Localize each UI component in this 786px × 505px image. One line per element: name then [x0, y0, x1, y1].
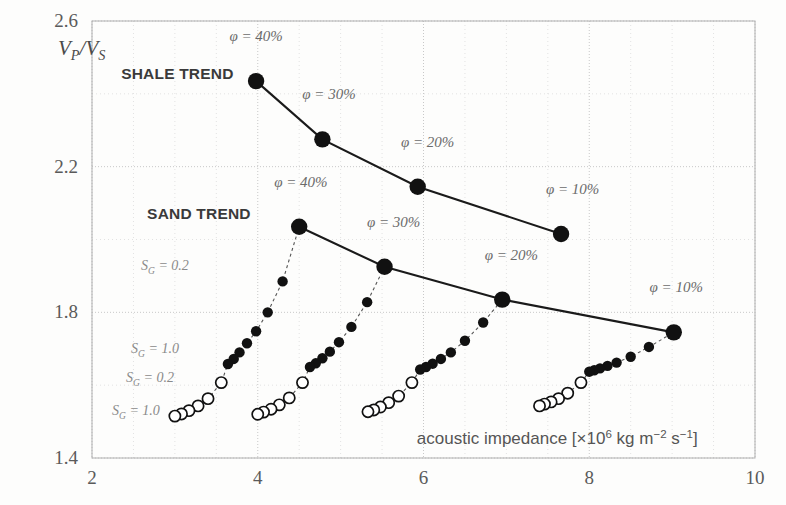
y-tick-label: 2.6: [54, 10, 78, 31]
porosity-label: φ = 30%: [367, 214, 420, 230]
marker-filled-circle: [460, 336, 470, 346]
x-tick-label: 6: [419, 467, 429, 488]
marker-filled-circle: [644, 342, 654, 352]
chart-svg: φ = 40%φ = 30%φ = 20%φ = 10%SHALE TRENDφ…: [0, 0, 786, 505]
marker-filled-circle: [277, 276, 287, 286]
figure-container: φ = 40%φ = 30%φ = 20%φ = 10%SHALE TRENDφ…: [0, 0, 786, 505]
trend-marker: [376, 259, 392, 275]
marker-filled-circle: [346, 322, 356, 332]
trend-marker: [291, 219, 307, 235]
trend-marker: [666, 324, 682, 340]
marker-open-circle: [297, 377, 308, 388]
marker-open-circle: [252, 409, 263, 420]
marker-open-circle: [406, 377, 417, 388]
marker-filled-circle: [362, 297, 372, 307]
marker-filled-circle: [305, 362, 315, 372]
marker-open-circle: [393, 390, 404, 401]
trend-marker: [314, 131, 330, 147]
marker-open-circle: [169, 411, 180, 422]
marker-open-circle: [362, 406, 373, 417]
x-tick-label: 2: [87, 467, 97, 488]
y-tick-label: 1.8: [54, 301, 78, 322]
marker-open-circle: [202, 393, 213, 404]
porosity-label: φ = 20%: [401, 134, 454, 150]
marker-open-circle: [284, 392, 295, 403]
marker-filled-circle: [478, 317, 488, 327]
trend-marker: [409, 178, 425, 194]
marker-filled-circle: [584, 366, 594, 376]
x-tick-label: 10: [746, 467, 765, 488]
porosity-label: φ = 20%: [485, 247, 538, 263]
marker-filled-circle: [242, 338, 252, 348]
marker-filled-circle: [334, 337, 344, 347]
marker-open-circle: [534, 400, 545, 411]
porosity-label: φ = 40%: [274, 174, 327, 190]
trend-name-sand-trend: SAND TREND: [147, 205, 251, 222]
marker-filled-circle: [625, 352, 635, 362]
trend-marker: [248, 73, 264, 89]
marker-filled-circle: [446, 347, 456, 357]
y-tick-label: 1.4: [54, 447, 78, 468]
marker-open-circle: [216, 377, 227, 388]
y-tick-label: 2.2: [54, 156, 78, 177]
marker-filled-circle: [223, 359, 233, 369]
porosity-label: φ = 10%: [650, 279, 703, 295]
marker-filled-circle: [251, 326, 261, 336]
marker-open-circle: [575, 377, 586, 388]
trend-name-shale-trend: SHALE TREND: [121, 65, 233, 82]
porosity-label: φ = 30%: [302, 86, 355, 102]
porosity-label: φ = 10%: [546, 181, 599, 197]
x-tick-label: 8: [585, 467, 595, 488]
marker-filled-circle: [415, 364, 425, 374]
porosity-label: φ = 40%: [229, 28, 282, 44]
trend-marker: [494, 291, 510, 307]
x-tick-label: 4: [253, 467, 263, 488]
marker-filled-circle: [611, 357, 621, 367]
marker-filled-circle: [262, 307, 272, 317]
trend-marker: [553, 226, 569, 242]
